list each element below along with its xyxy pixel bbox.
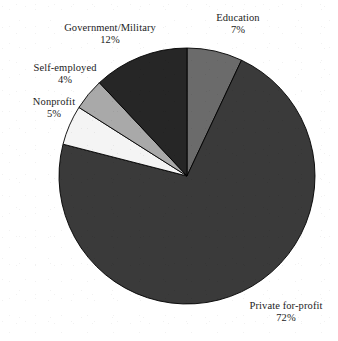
slice-label-private-for-profit-name: Private for-profit [234,300,338,312]
slice-label-education: Education 7% [186,12,290,36]
slice-label-private-for-profit: Private for-profit 72% [234,300,338,324]
slice-label-private-for-profit-percent: 72% [234,312,338,324]
slice-label-nonprofit-percent: 5% [2,108,106,120]
pie-chart-figure: Education 7% Government/Military 12% Sel… [0,0,338,341]
slice-label-nonprofit: Nonprofit 5% [2,96,106,120]
slice-label-government-military-name: Government/Military [30,22,190,34]
slice-label-education-name: Education [186,12,290,24]
slice-label-education-percent: 7% [186,24,290,36]
slice-label-government-military: Government/Military 12% [30,22,190,46]
pie-chart-canvas [0,0,338,341]
pie-slice-group [59,48,315,304]
slice-label-self-employed-name: Self-employed [6,62,124,74]
slice-label-nonprofit-name: Nonprofit [2,96,106,108]
slice-label-self-employed: Self-employed 4% [6,62,124,86]
slice-label-self-employed-percent: 4% [6,74,124,86]
slice-label-government-military-percent: 12% [30,34,190,46]
